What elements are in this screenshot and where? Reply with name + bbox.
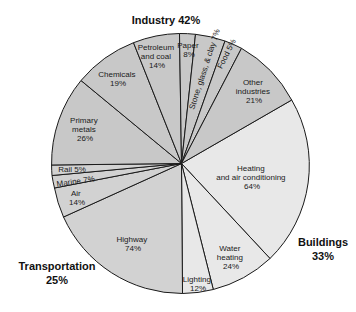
industry-group-title: Industry 42% xyxy=(132,14,201,26)
label-air: Air 14% xyxy=(69,189,85,207)
transportation-group-title: Transportation xyxy=(18,260,95,272)
label-rail: Rail 5% xyxy=(58,165,86,174)
transportation-group-pct: 25% xyxy=(46,274,68,286)
buildings-group-title: Buildings xyxy=(298,236,348,248)
buildings-group-pct: 33% xyxy=(312,250,334,262)
energy-pie-chart: Industry 42% Buildings 33% Transportatio… xyxy=(0,0,356,312)
